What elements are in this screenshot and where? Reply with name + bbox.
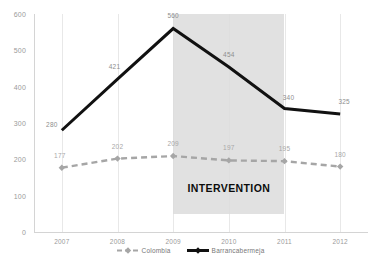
data-label: 202: [112, 142, 123, 149]
series-line-barrancabermeja: [62, 29, 340, 131]
legend-swatch-icon: [117, 246, 139, 255]
chart-legend: ColombiaBarrancabermeja: [0, 246, 381, 255]
x-axis-tick: 2009: [153, 238, 193, 245]
x-axis-tick: 2010: [209, 238, 249, 245]
legend-item-barrancabermeja[interactable]: Barrancabermeja: [187, 246, 265, 255]
data-label: 177: [54, 151, 65, 158]
x-axis-tick: 2007: [42, 238, 82, 245]
data-label: 340: [283, 94, 294, 101]
x-axis-tick: 2011: [265, 238, 305, 245]
data-label: 180: [334, 150, 345, 157]
y-axis-tick: 300: [0, 120, 26, 127]
series-marker-colombia: [281, 158, 287, 164]
series-marker-colombia: [59, 164, 65, 170]
y-axis-tick: 600: [0, 11, 26, 18]
data-label: 421: [109, 63, 120, 70]
series-marker-colombia: [170, 153, 176, 159]
x-axis-tick: 2008: [98, 238, 138, 245]
series-line-colombia: [62, 156, 340, 168]
data-label: 454: [223, 51, 234, 58]
y-axis-tick: 0: [0, 229, 26, 236]
y-axis-tick: 100: [0, 192, 26, 199]
legend-item-colombia[interactable]: Colombia: [117, 246, 171, 255]
legend-label: Barrancabermeja: [212, 247, 265, 254]
data-label: 197: [223, 144, 234, 151]
series-marker-colombia: [226, 157, 232, 163]
series-marker-colombia: [337, 163, 343, 169]
y-axis-tick: 400: [0, 83, 26, 90]
plot-area: INTERVENTION 177202209197195180280421560…: [34, 14, 368, 232]
series-layer: [34, 14, 368, 232]
series-marker-colombia: [114, 155, 120, 161]
data-label: 195: [279, 145, 290, 152]
y-axis-tick: 500: [0, 47, 26, 54]
x-axis-line: [34, 232, 368, 233]
data-label: 560: [167, 11, 178, 18]
data-label: 325: [338, 97, 349, 104]
line-chart: 0100200300400500600 INTERVENTION 1772022…: [0, 0, 381, 268]
y-axis-tick: 200: [0, 156, 26, 163]
data-label: 209: [167, 140, 178, 147]
legend-label: Colombia: [142, 247, 171, 254]
data-label: 280: [46, 121, 57, 128]
x-axis-tick: 2012: [320, 238, 360, 245]
legend-swatch-icon: [187, 246, 209, 255]
